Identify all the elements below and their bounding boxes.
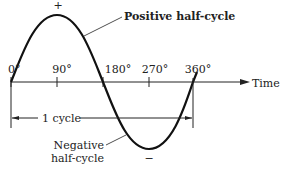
tick-label-270: 270° — [142, 63, 169, 76]
cycle-label: 1 cycle — [42, 112, 81, 125]
cycle-arrow-left-icon — [12, 116, 19, 120]
tick-label-180: 180° — [105, 63, 132, 76]
cycle-arrow-right-icon — [185, 116, 192, 120]
axis-arrow-icon — [240, 79, 250, 85]
tick-label-90: 90° — [52, 63, 72, 76]
tick-label-360: 360° — [185, 63, 212, 76]
negative-leader-line — [106, 135, 126, 145]
axis-label-time: Time — [252, 77, 280, 90]
plus-sign: + — [53, 0, 62, 12]
negative-half-label-line2: half-cycle — [51, 152, 104, 165]
tick-label-0: 0° — [8, 63, 21, 76]
positive-leader-line — [84, 17, 122, 36]
sine-wave-diagram: + Positive half-cycle 0° 90° 180° 270° 3… — [0, 0, 281, 170]
negative-half-label-line1: Negative — [54, 139, 104, 152]
positive-half-label: Positive half-cycle — [124, 10, 235, 23]
minus-sign: − — [144, 152, 153, 165]
